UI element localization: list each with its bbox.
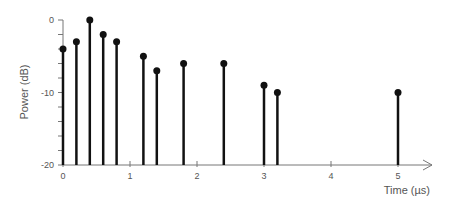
stem-marker: [86, 17, 93, 24]
stem-marker: [261, 82, 268, 89]
stem: [100, 31, 107, 165]
stem-marker: [100, 31, 107, 38]
stem: [86, 17, 93, 166]
stem-marker: [153, 67, 160, 74]
axes: 0-10-20012345: [41, 15, 432, 181]
stem: [274, 89, 281, 165]
stem: [261, 82, 268, 165]
stem: [113, 38, 120, 165]
x-tick-label: 1: [127, 171, 132, 181]
stem-marker: [395, 89, 402, 96]
x-tick-label: 4: [328, 171, 333, 181]
x-tick-label: 5: [395, 171, 400, 181]
stem: [153, 67, 160, 165]
y-axis-label: Power (dB): [18, 64, 30, 119]
x-tick-label: 3: [261, 171, 266, 181]
x-axis-label: Time (µs): [384, 184, 430, 196]
stem-marker: [140, 53, 147, 60]
x-tick-label: 0: [60, 171, 65, 181]
y-tick-label: -10: [41, 88, 54, 98]
stem-marker: [180, 60, 187, 67]
stem-marker: [60, 46, 67, 53]
y-tick-label: -20: [41, 160, 54, 170]
power-delay-profile-chart: 0-10-20012345 Power (dB) Time (µs): [0, 0, 450, 210]
stems: [60, 17, 402, 166]
stem-marker: [274, 89, 281, 96]
stem: [73, 38, 80, 165]
stem: [220, 60, 227, 165]
stem-marker: [113, 38, 120, 45]
stem-marker: [73, 38, 80, 45]
y-tick-label: 0: [49, 15, 54, 25]
stem: [395, 89, 402, 165]
stem-marker: [220, 60, 227, 67]
x-tick-label: 2: [194, 171, 199, 181]
stem: [140, 53, 147, 165]
stem: [180, 60, 187, 165]
